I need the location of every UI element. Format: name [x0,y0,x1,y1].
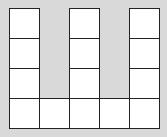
square-cell [129,68,160,99]
square-cell [69,68,100,99]
square-cell [69,8,100,39]
square-grid-diagram [0,0,167,137]
square-cell [69,38,100,69]
square-cell [9,98,40,129]
square-cell [9,38,40,69]
square-cell [9,8,40,39]
square-cell [69,98,100,129]
square-cell [99,98,130,129]
square-cell [39,98,70,129]
square-cell [129,98,160,129]
square-cell [129,38,160,69]
square-cell [9,68,40,99]
square-cell [129,8,160,39]
